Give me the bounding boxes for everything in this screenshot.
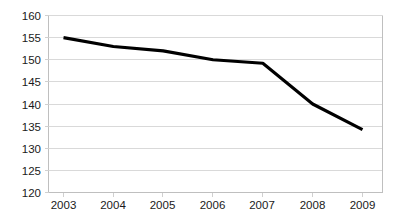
y-axis-label-120: 120 bbox=[22, 187, 41, 199]
y-axis-label-135: 135 bbox=[22, 121, 41, 133]
x-axis-label-2007: 2007 bbox=[249, 199, 275, 211]
y-axis-label-140: 140 bbox=[22, 99, 41, 111]
y-axis-label-125: 125 bbox=[22, 165, 41, 177]
y-axis-labels: 160 155 150 145 140 135 130 125 120 bbox=[22, 10, 41, 199]
x-axis-label-2009: 2009 bbox=[350, 199, 376, 211]
y-axis-label-150: 150 bbox=[22, 54, 41, 66]
line-chart: 160 155 150 145 140 135 130 125 120 2003… bbox=[0, 0, 399, 220]
y-axis-label-145: 145 bbox=[22, 76, 41, 88]
y-axis-label-155: 155 bbox=[22, 32, 41, 44]
chart-background bbox=[0, 0, 399, 220]
y-axis-label-160: 160 bbox=[22, 10, 41, 22]
x-axis-label-2008: 2008 bbox=[300, 199, 326, 211]
x-axis-label-2004: 2004 bbox=[100, 199, 126, 211]
x-axis-label-2003: 2003 bbox=[51, 199, 77, 211]
y-axis-label-130: 130 bbox=[22, 143, 41, 155]
chart-canvas: 160 155 150 145 140 135 130 125 120 2003… bbox=[0, 0, 399, 220]
x-axis-label-2005: 2005 bbox=[150, 199, 176, 211]
x-axis-label-2006: 2006 bbox=[200, 199, 226, 211]
